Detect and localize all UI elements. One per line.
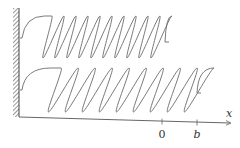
spring-diagram: x 0 b: [0, 0, 240, 148]
tick-label-b: b: [194, 128, 201, 141]
fixed-wall: [13, 8, 19, 117]
axis-label-x: x: [226, 107, 233, 120]
springs: [20, 16, 214, 112]
tick-label-0: 0: [159, 128, 166, 141]
lower-spring: [20, 68, 214, 112]
x-axis: x 0 b: [19, 107, 233, 141]
upper-spring: [20, 16, 172, 58]
